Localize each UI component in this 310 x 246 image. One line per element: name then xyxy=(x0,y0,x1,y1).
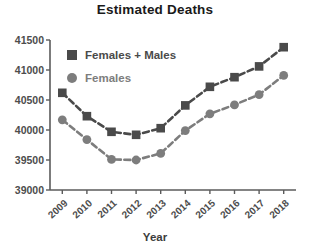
x-tick-label: 2016 xyxy=(218,197,242,220)
data-point-marker xyxy=(132,131,141,140)
y-axis-ticks: 390003950040000405004100041500 xyxy=(15,34,50,196)
y-tick-label: 41000 xyxy=(15,64,44,76)
data-point-marker xyxy=(83,112,92,121)
data-point-marker xyxy=(230,73,239,82)
square-marker-icon xyxy=(67,50,77,60)
data-point-marker xyxy=(206,83,215,92)
y-tick-label: 40000 xyxy=(15,124,44,136)
data-series-layer xyxy=(58,43,288,165)
data-point-marker xyxy=(255,90,264,99)
x-axis-title: Year xyxy=(0,231,310,243)
data-point-marker xyxy=(181,126,190,135)
data-point-marker xyxy=(132,156,141,165)
x-tick-label: 2015 xyxy=(193,197,217,220)
data-point-marker xyxy=(230,100,239,109)
x-tick-label: 2014 xyxy=(169,197,193,220)
chart-container: Estimated Deaths 39000395004000040500410… xyxy=(0,0,310,246)
data-point-marker xyxy=(58,89,67,98)
data-point-marker xyxy=(279,43,288,52)
chart-legend: Females + MalesFemales xyxy=(67,49,176,84)
x-axis-ticks: 2009201020112012201320142015201620172018 xyxy=(46,190,292,220)
data-point-marker xyxy=(279,71,288,80)
data-point-marker xyxy=(156,124,165,133)
x-tick-label: 2018 xyxy=(267,197,291,220)
x-tick-label: 2011 xyxy=(95,197,119,220)
data-point-marker xyxy=(107,128,116,137)
data-point-marker xyxy=(181,101,190,110)
y-tick-label: 39500 xyxy=(15,154,44,166)
data-point-marker xyxy=(58,115,67,124)
data-point-marker xyxy=(83,135,92,144)
data-point-marker xyxy=(107,155,116,164)
x-tick-label: 2017 xyxy=(243,197,267,220)
y-tick-label: 41500 xyxy=(15,34,44,46)
x-tick-label: 2009 xyxy=(46,197,70,220)
legend-label: Females + Males xyxy=(85,49,176,61)
y-tick-label: 39000 xyxy=(15,184,44,196)
data-point-marker xyxy=(206,109,215,118)
legend-label: Females xyxy=(85,72,131,84)
circle-marker-icon xyxy=(67,73,77,83)
x-tick-label: 2010 xyxy=(70,197,94,220)
x-tick-label: 2012 xyxy=(120,197,144,220)
data-point-marker xyxy=(156,149,165,158)
x-tick-label: 2013 xyxy=(144,197,168,220)
y-tick-label: 40500 xyxy=(15,94,44,106)
data-point-marker xyxy=(255,62,264,71)
plot-area: 390003950040000405004100041500 200920102… xyxy=(0,0,310,246)
